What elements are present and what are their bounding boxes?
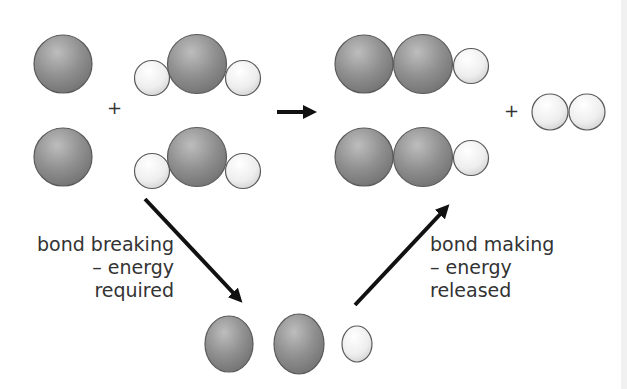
bond-breaking-line-3: required <box>10 279 174 302</box>
reaction-diagram <box>0 0 627 389</box>
bond-breaking-line-2: – energy <box>10 256 174 279</box>
product-molecule-2 <box>335 128 489 187</box>
reactant-molecule-triatomic-1 <box>135 35 261 96</box>
bond-making-label: bond making – energy released <box>430 233 590 302</box>
page-edge <box>621 0 627 389</box>
bond-making-line-2: – energy <box>430 256 590 279</box>
reactant-molecule-triatomic-2 <box>135 128 261 189</box>
bond-breaking-label: bond breaking – energy required <box>10 233 174 302</box>
bond-making-line-1: bond making <box>430 233 590 256</box>
reactant-atom-large-1 <box>34 35 92 93</box>
bond-breaking-line-1: bond breaking <box>10 233 174 256</box>
plus-sign-reactants: + <box>107 97 122 118</box>
reactant-atom-large-2 <box>34 128 92 186</box>
plus-sign-products: + <box>504 100 519 121</box>
product-molecule-diatomic <box>532 94 605 130</box>
intermediate-atoms <box>205 314 372 374</box>
product-molecule-1 <box>335 35 489 94</box>
bond-making-line-3: released <box>430 279 590 302</box>
